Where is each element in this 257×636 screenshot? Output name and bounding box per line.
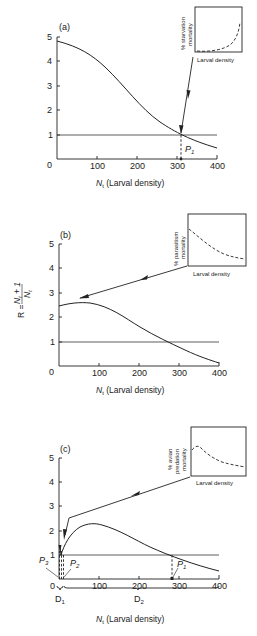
svg-text:4: 4 bbox=[49, 477, 54, 487]
panel-a-inset: % starvation mortality Larval density bbox=[180, 7, 242, 63]
svg-text:% parasitism: % parasitism bbox=[173, 232, 179, 266]
panel-c-y-tick-labels: 5 4 3 2 1 0 bbox=[49, 453, 55, 591]
svg-text:400: 400 bbox=[212, 581, 227, 591]
panel-c: (c) 5 4 3 2 1 0 100 200 300 400 P3 P2 bbox=[39, 427, 246, 625]
panel-c-d1-label: D1 bbox=[55, 594, 66, 605]
panel-b-y-title: R = Nt + 1 Nt bbox=[12, 282, 33, 318]
svg-text:% avian: % avian bbox=[167, 449, 173, 470]
panel-c-brace-d1 bbox=[57, 586, 63, 590]
svg-text:200: 200 bbox=[130, 161, 145, 171]
panel-c-p3-leader bbox=[46, 568, 58, 577]
svg-text:1: 1 bbox=[50, 337, 55, 347]
panel-c-arrowhead-end bbox=[63, 529, 67, 540]
svg-text:2: 2 bbox=[49, 526, 54, 536]
svg-text:% starvation: % starvation bbox=[180, 17, 186, 50]
panel-a: (a) 5 4 3 2 1 0 100 200 300 400 P1 bbox=[47, 7, 242, 189]
svg-text:Larval density: Larval density bbox=[197, 57, 234, 63]
svg-text:400: 400 bbox=[210, 161, 225, 171]
panel-c-label: (c) bbox=[60, 444, 71, 454]
svg-text:300: 300 bbox=[170, 161, 185, 171]
svg-text:0: 0 bbox=[49, 367, 54, 377]
panel-c-x-ticks bbox=[99, 575, 219, 579]
panel-b-y-tick-labels: 5 4 3 2 1 0 bbox=[49, 239, 55, 377]
svg-text:2: 2 bbox=[49, 312, 54, 322]
panel-c-p3-label: P3 bbox=[39, 555, 49, 566]
panel-c-x-title: Nt (Larval density) bbox=[96, 614, 164, 625]
panel-c-inset: % avian predation mortality Larval densi… bbox=[167, 427, 246, 486]
panel-a-axes bbox=[57, 37, 217, 159]
panel-c-p2-label: P2 bbox=[70, 558, 80, 569]
svg-text:200: 200 bbox=[132, 581, 147, 591]
panel-c-p2-leader bbox=[64, 569, 71, 577]
panel-a-label: (a) bbox=[59, 22, 70, 32]
panel-c-r-curve bbox=[60, 524, 219, 571]
svg-text:mortality: mortality bbox=[180, 236, 186, 259]
panel-b-x-title: Nt (Larval density) bbox=[96, 385, 164, 396]
svg-text:predation: predation bbox=[174, 449, 180, 474]
svg-text:R =: R = bbox=[16, 305, 26, 319]
panel-c-x-tick-labels: 100 200 300 400 bbox=[92, 581, 227, 591]
panel-c-arrow bbox=[65, 477, 190, 535]
svg-text:3: 3 bbox=[49, 501, 54, 511]
svg-text:mortality: mortality bbox=[187, 23, 193, 46]
panel-c-p1-marker bbox=[171, 577, 174, 580]
panel-b-r-curve bbox=[59, 303, 219, 363]
panel-a-x-tick-labels: 100 200 300 400 bbox=[90, 161, 225, 171]
svg-text:300: 300 bbox=[172, 368, 187, 378]
panel-b-axes bbox=[59, 244, 219, 366]
svg-text:4: 4 bbox=[47, 56, 52, 66]
panel-a-x-ticks bbox=[97, 155, 217, 159]
svg-text:1: 1 bbox=[50, 550, 55, 560]
panel-a-arrow bbox=[181, 57, 193, 133]
panel-b-arrowhead-end bbox=[79, 294, 89, 299]
svg-text:mortality: mortality bbox=[181, 448, 187, 471]
svg-text:400: 400 bbox=[212, 368, 227, 378]
panel-b-inset: % parasitism mortality Larval density bbox=[173, 214, 246, 277]
svg-text:5: 5 bbox=[47, 32, 52, 42]
svg-text:4: 4 bbox=[49, 263, 54, 273]
svg-text:3: 3 bbox=[49, 288, 54, 298]
panel-b: (b) R = Nt + 1 Nt 5 4 3 2 1 0 100 200 30… bbox=[12, 214, 246, 396]
svg-text:100: 100 bbox=[92, 368, 107, 378]
panel-c-d2-label: D2 bbox=[134, 594, 145, 605]
svg-text:0: 0 bbox=[47, 160, 52, 170]
svg-text:100: 100 bbox=[90, 161, 105, 171]
svg-text:Nt: Nt bbox=[22, 290, 33, 298]
panel-b-x-ticks bbox=[99, 362, 219, 366]
svg-text:1: 1 bbox=[48, 130, 53, 140]
panel-a-p1-marker bbox=[180, 158, 183, 161]
panel-a-arrowhead-end bbox=[179, 125, 184, 134]
svg-text:5: 5 bbox=[49, 453, 54, 463]
panel-b-arrow bbox=[80, 266, 187, 298]
panel-a-y-tick-labels: 5 4 3 2 1 0 bbox=[47, 32, 53, 170]
svg-text:Nt + 1: Nt + 1 bbox=[12, 282, 23, 304]
panel-a-p1-label: P1 bbox=[185, 144, 194, 155]
svg-text:0: 0 bbox=[50, 581, 55, 591]
svg-text:100: 100 bbox=[92, 581, 107, 591]
svg-text:200: 200 bbox=[132, 368, 147, 378]
svg-text:3: 3 bbox=[47, 81, 52, 91]
svg-text:5: 5 bbox=[49, 239, 54, 249]
figure-canvas: (a) 5 4 3 2 1 0 100 200 300 400 P1 bbox=[0, 0, 257, 636]
panel-b-x-tick-labels: 100 200 300 400 bbox=[92, 368, 227, 378]
svg-text:300: 300 bbox=[172, 581, 187, 591]
panel-c-arrowhead-mid bbox=[131, 491, 140, 496]
svg-text:Larval density: Larval density bbox=[196, 480, 233, 486]
panel-b-label: (b) bbox=[60, 230, 71, 240]
panel-a-x-title: Nt (Larval density) bbox=[96, 178, 164, 189]
svg-text:2: 2 bbox=[47, 105, 52, 115]
svg-text:Larval density: Larval density bbox=[193, 271, 230, 277]
panel-c-p1-leader bbox=[173, 568, 178, 577]
